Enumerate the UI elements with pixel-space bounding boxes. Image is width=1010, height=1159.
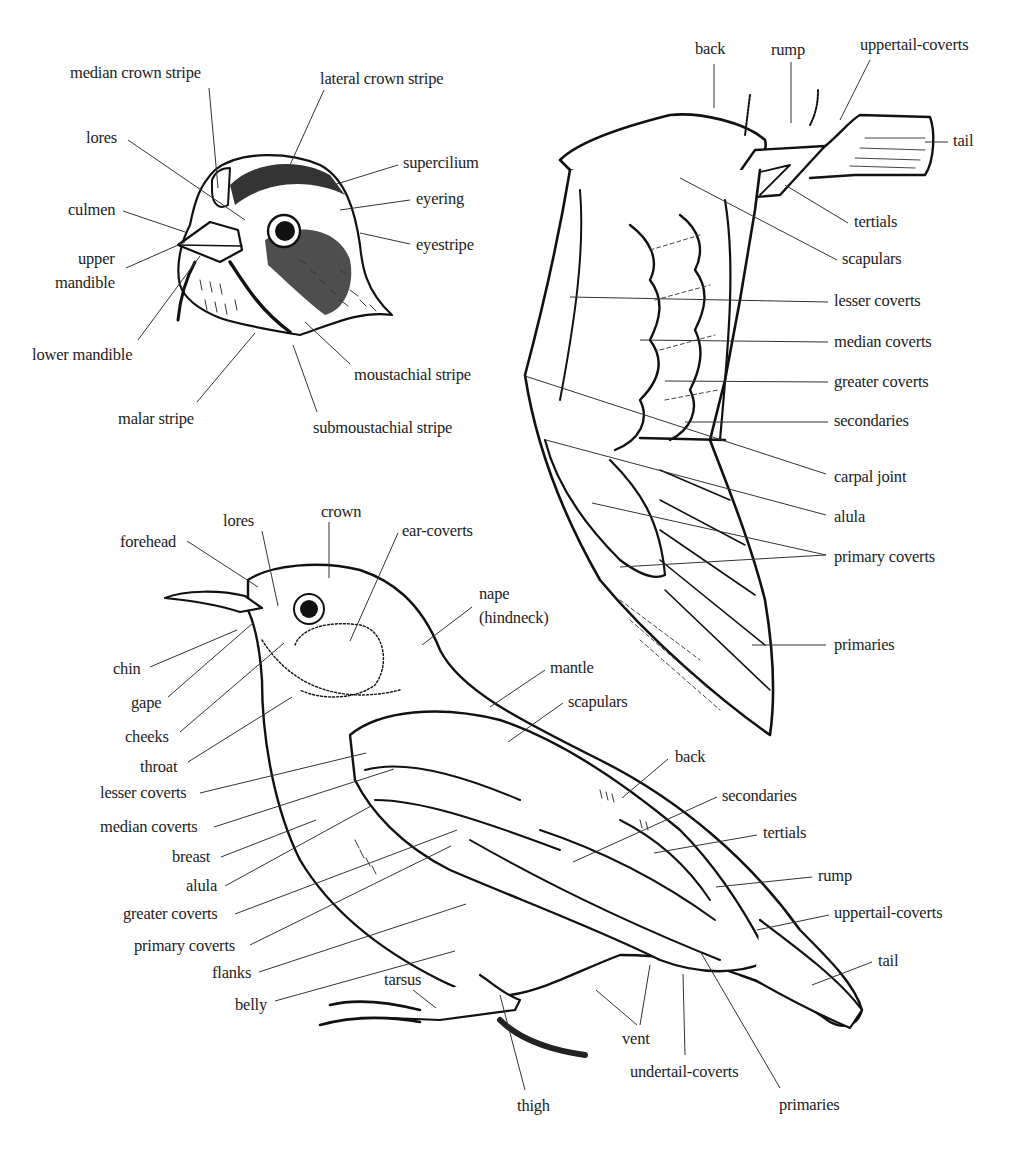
label-scapulars: scapulars xyxy=(568,693,628,711)
label-lateral-crown-stripe: lateral crown stripe xyxy=(320,70,443,88)
label-culmen: culmen xyxy=(68,201,115,219)
label-eyering: eyering xyxy=(416,190,464,208)
label-scapulars: scapulars xyxy=(842,250,902,268)
label-alula: alula xyxy=(834,508,865,526)
label-median-coverts: median coverts xyxy=(834,333,932,351)
label-lower-mandible: lower mandible xyxy=(32,346,132,364)
label-tertials: tertials xyxy=(763,824,806,842)
label-chin: chin xyxy=(113,660,141,678)
label-ear-coverts: ear-coverts xyxy=(402,522,473,540)
label-throat: throat xyxy=(140,758,177,776)
bird-topography-diagram: median crown stripe lateral crown stripe… xyxy=(0,0,1010,1159)
label-back: back xyxy=(695,40,725,58)
label-primary-coverts: primary coverts xyxy=(834,548,935,566)
label-mantle: mantle xyxy=(550,659,594,677)
label-lesser-coverts: lesser coverts xyxy=(834,292,921,310)
label-upper-mandible-line1: upper xyxy=(78,250,115,268)
head-illustration xyxy=(178,155,392,335)
label-lesser-coverts: lesser coverts xyxy=(100,784,187,802)
label-malar-stripe: malar stripe xyxy=(118,410,194,428)
label-carpal-joint: carpal joint xyxy=(834,468,906,486)
label-greater-coverts: greater coverts xyxy=(834,373,929,391)
label-submoustachial-stripe: submoustachial stripe xyxy=(313,419,452,437)
label-upper-mandible-line2: mandible xyxy=(55,274,115,292)
label-uppertail-coverts: uppertail-coverts xyxy=(860,36,968,54)
label-forehead: forehead xyxy=(120,533,176,551)
label-tertials: tertials xyxy=(854,213,897,231)
label-gape: gape xyxy=(131,694,161,712)
label-tail: tail xyxy=(953,132,973,150)
label-greater-coverts: greater coverts xyxy=(123,905,218,923)
label-primary-coverts: primary coverts xyxy=(134,937,235,955)
label-eyestripe: eyestripe xyxy=(416,236,474,254)
label-median-coverts: median coverts xyxy=(100,818,198,836)
label-belly: belly xyxy=(235,996,267,1014)
label-nape: nape xyxy=(479,585,509,603)
label-median-crown-stripe: median crown stripe xyxy=(70,64,201,82)
label-lores: lores xyxy=(223,512,254,530)
label-rump: rump xyxy=(818,867,852,885)
label-primaries: primaries xyxy=(779,1096,840,1114)
label-flanks: flanks xyxy=(212,964,251,982)
label-alula: alula xyxy=(186,877,217,895)
label-back: back xyxy=(675,748,705,766)
bird-illustrations xyxy=(0,0,1010,1159)
label-secondaries: secondaries xyxy=(834,412,909,430)
label-tarsus: tarsus xyxy=(384,971,421,989)
label-uppertail-coverts: uppertail-coverts xyxy=(834,904,942,922)
label-secondaries: secondaries xyxy=(722,787,797,805)
label-undertail-coverts: undertail-coverts xyxy=(630,1063,738,1081)
label-crown: crown xyxy=(321,503,361,521)
label-moustachial-stripe: moustachial stripe xyxy=(354,366,471,384)
label-supercilium: supercilium xyxy=(403,154,479,172)
label-tail: tail xyxy=(878,952,898,970)
label-rump: rump xyxy=(771,41,805,59)
label-lores: lores xyxy=(86,129,117,147)
label-breast: breast xyxy=(172,848,210,866)
label-primaries: primaries xyxy=(834,636,895,654)
label-thigh: thigh xyxy=(517,1097,550,1115)
label-vent: vent xyxy=(622,1030,650,1048)
label-cheeks: cheeks xyxy=(125,728,169,746)
label-hindneck: (hindneck) xyxy=(479,609,548,627)
